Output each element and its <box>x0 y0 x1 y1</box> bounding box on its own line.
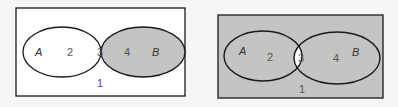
region-4-label: 4 <box>124 46 130 58</box>
set-b-label: B <box>152 46 159 58</box>
region-4-label: 4 <box>333 52 339 64</box>
set-b-label: B <box>352 46 359 58</box>
venn-diagram-left: A 2 3 4 B 1 <box>16 8 185 96</box>
venn-diagram-right: A 2 3 4 B 1 <box>218 15 383 98</box>
region-3-label: 3 <box>298 52 304 64</box>
region-1-label: 1 <box>97 77 103 89</box>
region-2-label: 2 <box>67 46 73 58</box>
set-a-label: A <box>34 46 42 58</box>
region-3-label: 3 <box>97 46 103 58</box>
region-1-label: 1 <box>299 83 305 95</box>
region-2-label: 2 <box>267 51 273 63</box>
venn-diagrams-canvas: A 2 3 4 B 1 A 2 3 4 B 1 <box>0 0 398 107</box>
set-a-label: A <box>238 45 246 57</box>
